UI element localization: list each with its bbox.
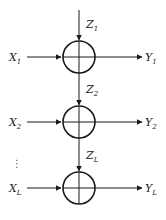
stage-2: Z2 X2 Y2 xyxy=(8,73,157,138)
stage-1: Z1 X1 Y1 xyxy=(8,10,157,73)
noise-label-1: Z1 xyxy=(85,18,98,33)
stage-L: ZL XL YL xyxy=(8,138,157,204)
adder-chain-diagram: Z1 X1 Y1 Z2 X2 Y2 ⋮ ZL XL YL xyxy=(0,0,166,220)
output-label-1: Y1 xyxy=(145,51,157,66)
ellipsis-vertical: ⋮ xyxy=(12,158,22,169)
noise-label-L: ZL xyxy=(85,149,99,164)
input-label-1: X1 xyxy=(8,51,21,66)
input-label-2: X2 xyxy=(8,116,22,131)
noise-label-2: Z2 xyxy=(85,83,99,98)
output-label-2: Y2 xyxy=(145,116,157,131)
output-label-L: YL xyxy=(145,182,157,197)
input-label-L: XL xyxy=(8,182,22,197)
